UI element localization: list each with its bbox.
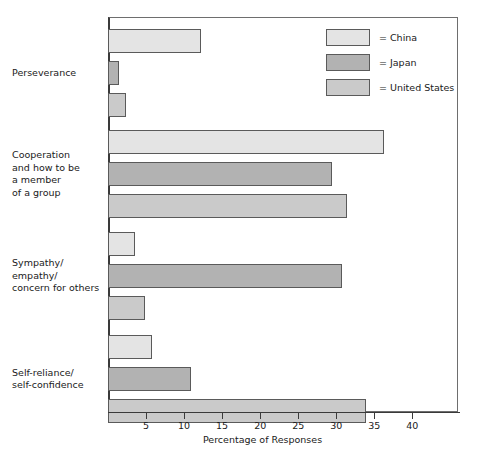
legend-swatch-china <box>326 29 370 46</box>
bar-us-group-1 <box>108 194 347 218</box>
legend-item-united-states: = United States <box>326 78 456 97</box>
category-label-line: and how to be <box>12 162 108 175</box>
bar-us-group-2 <box>108 296 145 320</box>
x-tick-15 <box>222 412 223 419</box>
category-label-line: self-confidence <box>12 379 108 392</box>
category-label-1: Cooperationand how to bea memberof a gro… <box>12 149 108 199</box>
x-tick-label-25: 25 <box>292 420 304 431</box>
bar-china-group-3 <box>108 335 152 359</box>
x-axis-line <box>108 412 460 413</box>
legend-swatch-japan <box>326 54 370 71</box>
category-label-line: Perseverance <box>12 67 108 80</box>
x-tick-label-10: 10 <box>178 420 190 431</box>
legend-label-united-states: = United States <box>379 82 454 93</box>
x-tick-label-5: 5 <box>143 420 149 431</box>
bar-china-group-2 <box>108 232 135 256</box>
legend-item-china: = China <box>326 28 456 47</box>
x-tick-40 <box>412 412 413 419</box>
legend-swatch-united-states <box>326 79 370 96</box>
category-label-line: Self-reliance/ <box>12 367 108 380</box>
x-tick-label-35: 35 <box>368 420 380 431</box>
bar-japan-group-3 <box>108 367 191 391</box>
category-label-3: Self-reliance/self-confidence <box>12 367 108 392</box>
bar-china-group-0 <box>108 29 201 53</box>
x-tick-25 <box>298 412 299 419</box>
legend-label-japan: = Japan <box>379 57 416 68</box>
category-label-line: a member <box>12 174 108 187</box>
x-axis-title: Percentage of Responses <box>0 434 479 445</box>
x-tick-label-20: 20 <box>254 420 266 431</box>
x-tick-35 <box>374 412 375 419</box>
x-tick-5 <box>146 412 147 419</box>
category-label-2: Sympathy/empathy/concern for others <box>12 257 108 295</box>
x-tick-label-30: 30 <box>330 420 342 431</box>
chart-legend: = China = Japan = United States <box>326 28 456 103</box>
x-tick-label-40: 40 <box>406 420 418 431</box>
bar-japan-group-1 <box>108 162 332 186</box>
x-tick-10 <box>184 412 185 419</box>
bar-japan-group-2 <box>108 264 342 288</box>
category-label-line: concern for others <box>12 282 108 295</box>
bar-us-group-0 <box>108 93 126 117</box>
category-label-line: Sympathy/ <box>12 257 108 270</box>
bar-china-group-1 <box>108 130 384 154</box>
legend-item-japan: = Japan <box>326 53 456 72</box>
category-label-line: Cooperation <box>12 149 108 162</box>
x-tick-30 <box>336 412 337 419</box>
category-label-0: Perseverance <box>12 67 108 80</box>
bar-japan-group-0 <box>108 61 119 85</box>
x-tick-20 <box>260 412 261 419</box>
category-label-line: of a group <box>12 187 108 200</box>
category-label-line: empathy/ <box>12 270 108 283</box>
x-tick-label-15: 15 <box>216 420 228 431</box>
horizontal-bar-chart: PerseveranceCooperationand how to bea me… <box>0 0 479 456</box>
legend-label-china: = China <box>379 32 417 43</box>
